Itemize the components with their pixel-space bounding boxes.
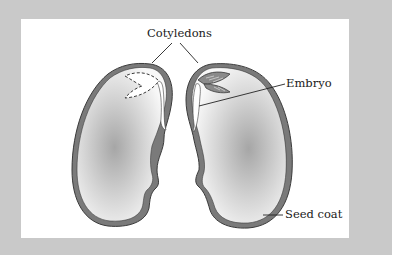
label-cotyledons: Cotyledons xyxy=(147,28,212,40)
right-seed-half xyxy=(186,64,292,228)
label-seed-coat: Seed coat xyxy=(285,209,342,221)
cotyledons-leader-right xyxy=(180,43,198,63)
cotyledons-leader-left xyxy=(152,43,172,63)
left-seed-half xyxy=(72,63,172,226)
label-embryo: Embryo xyxy=(286,78,332,90)
